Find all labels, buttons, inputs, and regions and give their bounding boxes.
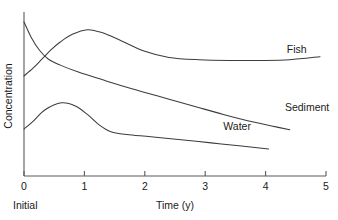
x-axis-tick-label: 4 xyxy=(263,180,269,192)
x-axis-tick-label: 5 xyxy=(323,180,329,192)
x-axis-tick-label: 0 xyxy=(21,180,27,192)
series-label-water: Water xyxy=(223,120,251,132)
chart-axes xyxy=(24,12,326,176)
initial-annotation-label: Initial xyxy=(13,199,38,211)
x-axis-tick-label: 1 xyxy=(81,180,87,192)
y-axis-title: Concentration xyxy=(2,63,14,129)
x-axis-ticks xyxy=(24,171,326,176)
series-curve-sediment xyxy=(24,22,290,130)
x-axis-title: Time (y) xyxy=(156,199,194,211)
concentration-vs-time-chart: 012345 FishSedimentWater Time (y) Initia… xyxy=(0,0,338,220)
chart-canvas: 012345 FishSedimentWater Time (y) Initia… xyxy=(0,0,338,220)
series-label-fish: Fish xyxy=(287,43,307,55)
x-axis-tick-label: 2 xyxy=(142,180,148,192)
series-label-sediment: Sediment xyxy=(285,101,329,113)
chart-series-curves xyxy=(24,22,320,149)
x-axis-tick-labels: 012345 xyxy=(21,180,329,192)
x-axis-tick-label: 3 xyxy=(202,180,208,192)
